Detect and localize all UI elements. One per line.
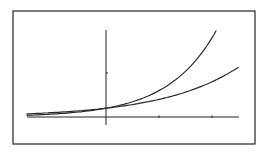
tick-marks bbox=[106, 73, 212, 118]
screen-frame bbox=[13, 11, 255, 144]
graph-screen bbox=[0, 0, 268, 152]
curve-2-pow-x bbox=[27, 67, 239, 114]
curve-3-pow-x bbox=[27, 31, 217, 116]
